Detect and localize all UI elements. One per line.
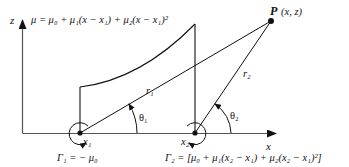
vortex-1-circulation-label: Γ₁ = − μ₀ [56, 152, 98, 163]
point-P-label: P [270, 4, 278, 18]
distribution-equation: μ = μ₀ + μ₁(x − x₁) + μ₂(x − x₁)² [30, 14, 169, 26]
doublet-distribution-curve [80, 24, 195, 133]
vortex-1-position-label: x₁ [82, 136, 91, 147]
x-axis-label: x [265, 140, 271, 152]
theta2-label: θ₂ [230, 110, 239, 121]
vortex-1-point [77, 130, 82, 135]
vortex-2-position-label: x₂ [180, 136, 190, 147]
theta1-label: θ₁ [139, 112, 148, 123]
r1-label: r₁ [146, 85, 154, 96]
theta2-arc [215, 104, 231, 133]
vortex-2-point [192, 130, 197, 135]
point-P-coords: (x, z) [281, 6, 302, 18]
point-P-marker [268, 18, 274, 24]
theta1-arc [129, 104, 137, 133]
z-axis-label: z [9, 14, 15, 26]
vortex-2-circulation-label: Γ₂ = [μ₀ + μ₁(x₂ − x₁) + μ₂(x₂ − x₁)²] [164, 152, 322, 164]
r2-label: r₂ [243, 68, 251, 79]
doublet-panel-diagram: z x μ = μ₀ + μ₁(x − x₁) + μ₂(x − x₁)² r₁… [0, 0, 349, 167]
